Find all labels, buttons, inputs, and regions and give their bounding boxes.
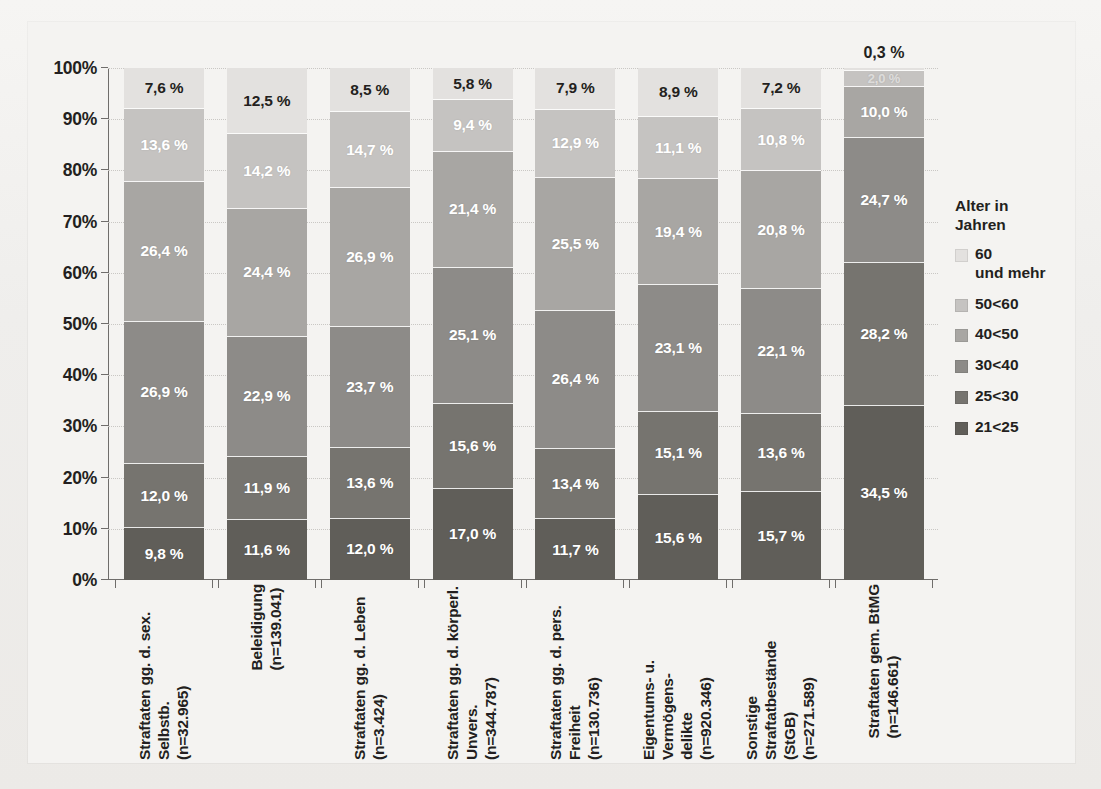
bar-segment[interactable]: 22,9 % <box>227 337 307 457</box>
bar-segment[interactable]: 13,4 % <box>535 449 615 519</box>
x-axis-category-label: Straftaten gg. d. Leben (n=3.424) <box>330 584 410 760</box>
bar-segment-label: 8,5 % <box>350 81 389 99</box>
bar-segment[interactable]: 21,4 % <box>433 152 513 268</box>
y-axis-tick-mark <box>101 477 108 478</box>
y-axis-tick-mark <box>101 425 108 426</box>
bar-segment[interactable]: 25,1 % <box>433 268 513 404</box>
bar-column[interactable]: 8,9 %11,1 %19,4 %23,1 %15,1 %15,6 % <box>638 68 718 580</box>
bar-segment[interactable]: 10,0 % <box>844 87 924 138</box>
bar-segment[interactable]: 11,6 % <box>227 520 307 580</box>
y-axis-tick-label: 90% <box>63 109 97 130</box>
legend-item-label: 60 und mehr <box>975 245 1046 283</box>
bar-segment[interactable]: 11,9 % <box>227 457 307 520</box>
bar-column[interactable]: 12,5 %14,2 %24,4 %22,9 %11,9 %11,6 % <box>227 68 307 580</box>
bar-segment[interactable]: 24,7 % <box>844 138 924 263</box>
bar-segment-label: 13,6 % <box>140 136 187 154</box>
legend-color-swatch <box>955 329 968 342</box>
bar-segment-label: 10,0 % <box>860 103 907 121</box>
legend-item[interactable]: 30<40 <box>955 356 1083 375</box>
x-axis-labels: Straftaten gg. d. sex. Selbstb. (n=32.96… <box>108 584 938 764</box>
bar-segment[interactable]: 8,5 % <box>330 68 410 112</box>
bar-segment-label: 9,4 % <box>453 116 492 134</box>
bar-segment-label: 10,8 % <box>758 131 805 149</box>
bar-segment-label: 25,5 % <box>552 235 599 253</box>
bar-segment[interactable]: 25,5 % <box>535 178 615 311</box>
legend-item[interactable]: 25<30 <box>955 387 1083 406</box>
bar-segment-label: 8,9 % <box>659 83 698 101</box>
y-axis-tick-mark <box>101 118 108 119</box>
legend-item[interactable]: 50<60 <box>955 295 1083 314</box>
legend-item[interactable]: 60 und mehr <box>955 245 1083 283</box>
bar-segment[interactable]: 15,6 % <box>638 495 718 580</box>
bar-segment[interactable]: 14,2 % <box>227 134 307 209</box>
bar-segment[interactable]: 7,9 % <box>535 68 615 110</box>
x-axis-category-label: Beleidigung (n=139.041) <box>227 584 307 760</box>
legend-item-label: 40<50 <box>975 325 1019 344</box>
bar-segment[interactable]: 15,1 % <box>638 412 718 495</box>
bar-segment-label: 13,4 % <box>552 475 599 493</box>
bar-segment[interactable]: 7,2 % <box>741 68 821 109</box>
bar-segment[interactable]: 9,8 % <box>124 528 204 580</box>
bar-segment[interactable]: 9,4 % <box>433 100 513 152</box>
bar-segment[interactable]: 34,5 % <box>844 406 924 580</box>
bar-segment-label: 15,7 % <box>758 527 805 545</box>
x-axis-category-label: Straftaten gg. d. körperl. Unvers. (n=34… <box>433 584 513 760</box>
bar-column[interactable]: 0,3 %2,0 %10,0 %24,7 %28,2 %34,5 % <box>844 68 924 580</box>
bar-segment[interactable]: 17,0 % <box>433 489 513 580</box>
bar-segment[interactable]: 5,8 % <box>433 68 513 100</box>
bar-column[interactable]: 7,6 %13,6 %26,4 %26,9 %12,0 %9,8 % <box>124 68 204 580</box>
bar-segment[interactable]: 13,6 % <box>741 414 821 491</box>
bar-segment-label: 24,7 % <box>860 191 907 209</box>
legend-color-swatch <box>955 299 968 312</box>
y-axis-tick-mark <box>101 272 108 273</box>
bar-segment[interactable]: 19,4 % <box>638 179 718 286</box>
bar-segment[interactable]: 15,7 % <box>741 492 821 580</box>
bar-column[interactable]: 8,5 %14,7 %26,9 %23,7 %13,6 %12,0 % <box>330 68 410 580</box>
bar-segment[interactable]: 10,8 % <box>741 109 821 171</box>
bar-segment[interactable]: 12,5 % <box>227 68 307 134</box>
bar-segment[interactable]: 11,1 % <box>638 117 718 178</box>
bar-segment[interactable]: 13,6 % <box>124 109 204 182</box>
legend-item-label: 30<40 <box>975 356 1019 375</box>
bar-segment[interactable]: 28,2 % <box>844 263 924 406</box>
bar-segment[interactable]: 15,6 % <box>433 404 513 489</box>
bar-segment[interactable]: 23,1 % <box>638 285 718 412</box>
bar-segment[interactable]: 14,7 % <box>330 112 410 188</box>
bar-segment[interactable]: 23,7 % <box>330 327 410 449</box>
bar-segment[interactable]: 24,4 % <box>227 209 307 337</box>
bar-segment[interactable]: 12,0 % <box>330 519 410 580</box>
bar-segment[interactable]: 26,4 % <box>535 311 615 449</box>
bar-segment-label: 26,9 % <box>346 248 393 266</box>
bar-segment-label: 28,2 % <box>860 325 907 343</box>
bar-segment[interactable]: 26,9 % <box>330 188 410 326</box>
bar-segment[interactable]: 26,9 % <box>124 322 204 465</box>
bar-segment[interactable]: 12,9 % <box>535 110 615 178</box>
bar-segment-label: 34,5 % <box>860 484 907 502</box>
y-axis-tick-label: 80% <box>63 160 97 181</box>
bar-segment[interactable]: 2,0 % <box>844 71 924 87</box>
bar-segment[interactable]: 7,6 % <box>124 68 204 109</box>
bar-segment[interactable]: 12,0 % <box>124 464 204 528</box>
legend-item[interactable]: 21<25 <box>955 418 1083 437</box>
bar-segment[interactable]: 11,7 % <box>535 519 615 580</box>
bar-segment-label: 22,1 % <box>758 342 805 360</box>
bar-segment[interactable]: 26,4 % <box>124 182 204 322</box>
bar-segment-label: 15,6 % <box>449 437 496 455</box>
bar-segment-label: 24,4 % <box>243 263 290 281</box>
x-axis-category-label: Straftaten gg. d. sex. Selbstb. (n=32.96… <box>124 584 204 760</box>
bar-segment-label: 15,6 % <box>655 529 702 547</box>
legend-item[interactable]: 40<50 <box>955 325 1083 344</box>
bar-segment[interactable]: 13,6 % <box>330 448 410 518</box>
bar-column[interactable]: 7,2 %10,8 %20,8 %22,1 %13,6 %15,7 % <box>741 68 821 580</box>
bar-segment[interactable]: 22,1 % <box>741 289 821 414</box>
legend-color-swatch <box>955 422 968 435</box>
bar-segment[interactable]: 8,9 % <box>638 68 718 117</box>
x-axis-category-label: Sonstige Straftatbestände (StGB) (n=271.… <box>741 584 821 760</box>
y-axis-tick-mark <box>101 323 108 324</box>
bar-column[interactable]: 5,8 %9,4 %21,4 %25,1 %15,6 %17,0 % <box>433 68 513 580</box>
chart-legend: Alter in Jahren 60 und mehr50<6040<5030<… <box>955 196 1083 449</box>
bar-segment-label: 12,9 % <box>552 134 599 152</box>
bar-segment[interactable]: 20,8 % <box>741 171 821 289</box>
y-axis-tick-label: 0% <box>72 570 97 591</box>
bar-column[interactable]: 7,9 %12,9 %25,5 %26,4 %13,4 %11,7 % <box>535 68 615 580</box>
